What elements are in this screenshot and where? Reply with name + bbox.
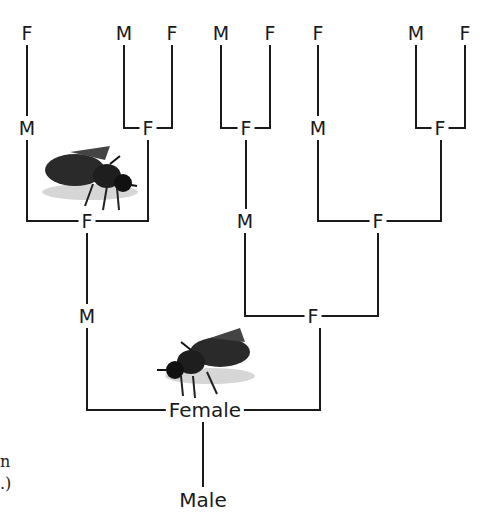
node-f: F	[140, 119, 157, 138]
node-f: F	[310, 24, 327, 43]
node-m: M	[113, 24, 135, 43]
node-f: F	[19, 24, 36, 43]
cropped-caption-fragment-1: n	[0, 452, 10, 471]
node-f: F	[79, 212, 96, 231]
node-m: M	[76, 307, 98, 326]
node-female: Female	[166, 400, 244, 420]
node-f: F	[305, 307, 322, 326]
cropped-caption-fragment-2: .)	[0, 474, 11, 493]
node-m: M	[405, 24, 427, 43]
node-m: M	[210, 24, 232, 43]
node-male: Male	[176, 490, 229, 510]
node-f: F	[457, 24, 474, 43]
node-f: F	[164, 24, 181, 43]
node-f: F	[370, 212, 387, 231]
node-f: F	[262, 24, 279, 43]
node-f: F	[238, 119, 255, 138]
node-m: M	[16, 119, 38, 138]
node-m: M	[307, 119, 329, 138]
node-m: M	[234, 212, 256, 231]
bee-image-lower	[0, 0, 489, 523]
node-f: F	[432, 119, 449, 138]
